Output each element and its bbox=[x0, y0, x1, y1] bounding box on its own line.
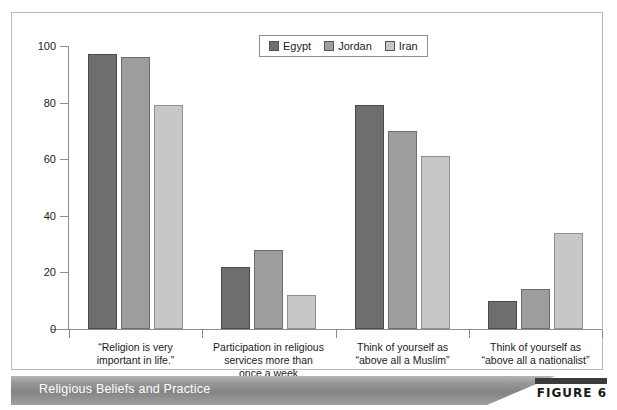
legend-label: Jordan bbox=[338, 41, 372, 52]
legend-item-iran: Iran bbox=[385, 41, 418, 52]
y-axis-tick-label: 60 bbox=[28, 153, 56, 165]
bar-iran-cat1 bbox=[154, 105, 183, 329]
bar-jordan-cat3 bbox=[388, 131, 417, 329]
y-axis-tick bbox=[60, 46, 68, 47]
category-label-line: Participation in religious bbox=[194, 341, 343, 354]
category-label-line: important in life.” bbox=[61, 354, 210, 367]
figure-number-tag: FIGURE 6 bbox=[523, 376, 609, 405]
figure-tag-rule bbox=[535, 378, 607, 384]
y-axis-tick-label: 80 bbox=[28, 97, 56, 109]
figure-caption: Religious Beliefs and Practice bbox=[39, 382, 210, 396]
category-label-1: “Religion is veryimportant in life.” bbox=[61, 341, 210, 367]
figure-footer: Religious Beliefs and Practice FIGURE 6 bbox=[0, 376, 617, 406]
y-axis-tick bbox=[60, 103, 68, 104]
x-axis-tick bbox=[469, 330, 470, 338]
chart-frame: EgyptJordanIran 020406080100 “Religion i… bbox=[11, 12, 603, 370]
category-label-4: Think of yourself as“above all a nationa… bbox=[461, 341, 610, 367]
y-axis-tick bbox=[60, 272, 68, 273]
legend-label: Egypt bbox=[283, 41, 311, 52]
x-axis-tick bbox=[69, 330, 70, 338]
legend-swatch-icon bbox=[269, 41, 279, 51]
bar-egypt-cat2 bbox=[221, 267, 250, 329]
bar-jordan-cat2 bbox=[254, 250, 283, 329]
category-label-3: Think of yourself as“above all a Muslim” bbox=[328, 341, 477, 367]
y-axis-tick-label: 0 bbox=[28, 323, 56, 335]
category-label-line: services more than bbox=[194, 354, 343, 367]
bar-jordan-cat1 bbox=[121, 57, 150, 329]
legend-swatch-icon bbox=[385, 41, 395, 51]
bar-iran-cat2 bbox=[287, 295, 316, 329]
category-label-line: Think of yourself as bbox=[328, 341, 477, 354]
bar-egypt-cat3 bbox=[355, 105, 384, 329]
bar-egypt-cat1 bbox=[88, 54, 117, 329]
bar-iran-cat3 bbox=[421, 156, 450, 329]
legend-label: Iran bbox=[399, 41, 418, 52]
y-axis-tick-label: 100 bbox=[28, 40, 56, 52]
legend-item-egypt: Egypt bbox=[269, 41, 311, 52]
figure-container: EgyptJordanIran 020406080100 “Religion i… bbox=[0, 0, 617, 410]
category-label-line: Think of yourself as bbox=[461, 341, 610, 354]
x-axis-tick bbox=[202, 330, 203, 338]
x-axis-tick bbox=[336, 330, 337, 338]
y-axis-tick bbox=[60, 329, 68, 330]
x-axis-line bbox=[51, 329, 602, 330]
bar-jordan-cat4 bbox=[521, 289, 550, 329]
y-axis-tick bbox=[60, 159, 68, 160]
y-axis-tick bbox=[60, 216, 68, 217]
category-label-2: Participation in religiousservices more … bbox=[194, 341, 343, 380]
category-label-line: “above all a Muslim” bbox=[328, 354, 477, 367]
y-axis-tick-label: 20 bbox=[28, 266, 56, 278]
legend-swatch-icon bbox=[324, 41, 334, 51]
category-label-line: “Religion is very bbox=[61, 341, 210, 354]
x-axis-tick bbox=[602, 330, 603, 338]
figure-number-label: FIGURE 6 bbox=[537, 386, 607, 400]
chart-legend: EgyptJordanIran bbox=[259, 35, 428, 57]
bar-egypt-cat4 bbox=[488, 301, 517, 329]
legend-item-jordan: Jordan bbox=[324, 41, 372, 52]
y-axis-tick-label: 40 bbox=[28, 210, 56, 222]
plot-area bbox=[69, 46, 602, 329]
category-label-line: “above all a nationalist” bbox=[461, 354, 610, 367]
bar-iran-cat4 bbox=[554, 233, 583, 329]
